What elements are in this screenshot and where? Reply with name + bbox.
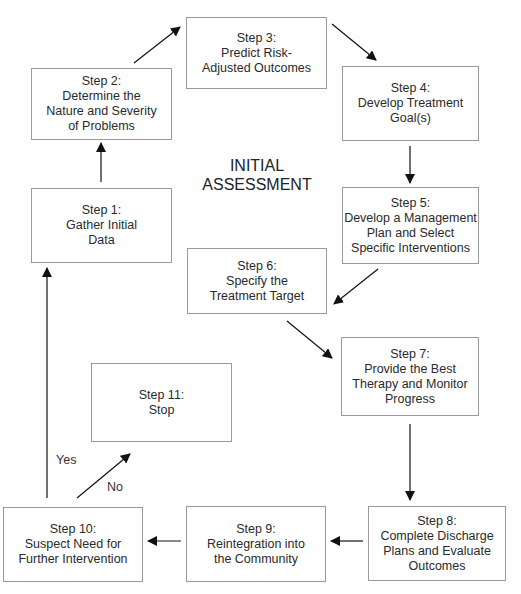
step-8-label: Step 8: Complete Discharge Plans and Eva… <box>380 514 493 574</box>
step-9-box: Step 9: Reintegration into the Community <box>186 506 326 582</box>
step-8-box: Step 8: Complete Discharge Plans and Eva… <box>368 506 506 581</box>
step-2-box: Step 2: Determine the Nature and Severit… <box>31 68 172 140</box>
step-10-label: Step 10: Suspect Need for Further Interv… <box>18 522 127 567</box>
step-7-label: Step 7: Provide the Best Therapy and Mon… <box>352 347 467 407</box>
step-3-label: Step 3: Predict Risk- Adjusted Outcomes <box>202 31 311 76</box>
arrow-step5-to-step6 <box>334 269 378 304</box>
yes-edge-label: Yes <box>56 453 76 467</box>
no-edge-label: No <box>107 480 123 494</box>
step-9-label: Step 9: Reintegration into the Community <box>207 522 305 567</box>
arrow-step2-to-step3 <box>134 27 180 63</box>
step-1-label: Step 1: Gather Initial Data <box>66 203 137 248</box>
step-4-box: Step 4: Develop Treatment Goal(s) <box>342 66 479 141</box>
step-11-label: Step 11: Stop <box>139 388 185 418</box>
step-6-box: Step 6: Specify the Treatment Target <box>187 248 327 314</box>
step-7-box: Step 7: Provide the Best Therapy and Mon… <box>341 337 479 416</box>
step-10-box: Step 10: Suspect Need for Further Interv… <box>3 507 143 582</box>
initial-assessment-title: INITIAL ASSESSMENT <box>196 156 318 194</box>
arrow-step3-to-step4 <box>332 24 376 60</box>
arrow-step6-to-step7 <box>287 321 332 358</box>
step-1-box: Step 1: Gather Initial Data <box>31 188 172 263</box>
step-3-box: Step 3: Predict Risk- Adjusted Outcomes <box>186 17 327 89</box>
step-5-label: Step 5: Develop a Management Plan and Se… <box>344 196 477 256</box>
step-6-label: Step 6: Specify the Treatment Target <box>210 259 305 304</box>
step-4-label: Step 4: Develop Treatment Goal(s) <box>358 81 464 126</box>
step-5-box: Step 5: Develop a Management Plan and Se… <box>342 187 479 264</box>
step-2-label: Step 2: Determine the Nature and Severit… <box>46 74 156 134</box>
step-11-box: Step 11: Stop <box>91 363 232 442</box>
